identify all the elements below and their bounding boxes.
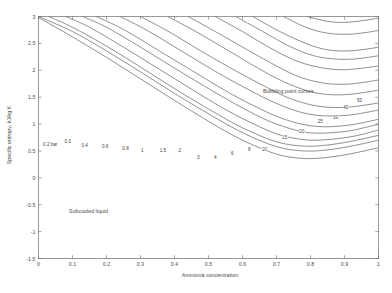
curve-pressure-label: 20	[299, 129, 305, 134]
x-tick-label: 0.8	[303, 261, 319, 267]
y-tick-label: 3	[19, 14, 36, 20]
isobar-curve	[338, 3, 379, 6]
curve-pressure-label: 10	[261, 147, 267, 152]
curve-pressure-label: 50	[356, 98, 362, 103]
axis-ticks	[39, 17, 379, 259]
y-tick-label: 0	[19, 175, 36, 181]
isobar-curve	[215, 17, 378, 70]
x-tick-label: 0.1	[65, 261, 81, 267]
y-tick-label: 1.5	[19, 94, 36, 100]
isobar-curve	[307, 17, 378, 23]
isobar-curve	[120, 17, 378, 117]
curve-pressure-label: 15	[282, 135, 288, 140]
y-tick-label: -1	[19, 229, 36, 235]
curve-pressure-label: 0.8	[122, 146, 129, 151]
curve-pressure-label: 4	[214, 155, 218, 160]
y-tick-label: 2	[19, 67, 36, 73]
y-axis-title: Specific entropy, kJ/kg K	[6, 95, 12, 175]
y-tick-label: -1.5	[19, 256, 36, 262]
x-tick-label: 0.5	[201, 261, 217, 267]
isobar-curve	[188, 17, 378, 85]
x-tick-label: 0.3	[133, 261, 149, 267]
curve-pressure-label: 0.6	[101, 144, 108, 149]
isobar-curve	[324, 10, 378, 14]
x-tick-label: 0.6	[235, 261, 251, 267]
chart-annotation: Bubbling point curves	[263, 88, 314, 94]
curve-pressure-label: 0.3	[64, 139, 71, 144]
y-tick-label: 1	[19, 121, 36, 127]
x-tick-label: 0.9	[337, 261, 353, 267]
curve-pressure-label: 0.2 bar	[43, 142, 58, 147]
curve-pressure-label: 30	[333, 115, 339, 120]
curve-pressure-label: 6	[231, 151, 235, 156]
curve-pressure-label: 1.5	[159, 148, 166, 153]
curve-pressure-label: 1	[141, 148, 145, 153]
curve-pressure-label: 2	[178, 148, 182, 153]
isobar-curve	[141, 17, 379, 108]
x-tick-label: 0.2	[99, 261, 115, 267]
x-tick-label: 1	[371, 261, 387, 267]
y-tick-label: 0.5	[19, 148, 36, 154]
x-axis-title: Ammonia concentration	[150, 272, 270, 278]
isobar-curves	[39, 0, 379, 159]
curve-pressure-label: 3	[197, 155, 201, 160]
axes-frame	[39, 17, 379, 259]
curve-pressure-label: 40	[343, 105, 349, 110]
x-tick-label: 0	[31, 261, 47, 267]
y-tick-label: -0.5	[19, 202, 36, 208]
curve-pressure-label: 8	[248, 147, 252, 152]
x-tick-label: 0.7	[269, 261, 285, 267]
curve-pressure-label: 25	[317, 119, 323, 124]
curve-pressure-label: 0.4	[81, 143, 88, 148]
y-tick-label: 2.5	[19, 40, 36, 46]
chart-annotation: Subcooled liquid	[69, 208, 108, 214]
isobar-curve	[283, 17, 378, 35]
isobar-curve	[236, 17, 379, 60]
plot-canvas	[0, 0, 392, 293]
isobar-curve	[253, 17, 379, 51]
x-tick-label: 0.4	[167, 261, 183, 267]
entropy-concentration-chart: Specific entropy, kJ/kg K Ammonia concen…	[0, 0, 392, 293]
